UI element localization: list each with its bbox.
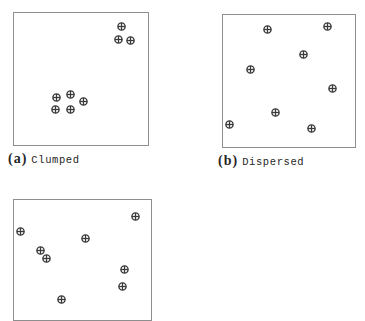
circle-plus-icon xyxy=(299,50,308,59)
panel-a-clumped xyxy=(13,12,149,146)
caption-panel-a: (a)Clumped xyxy=(8,149,80,167)
circle-plus-icon xyxy=(323,22,332,31)
caption-a-text: Clumped xyxy=(31,154,79,166)
circle-plus-icon xyxy=(126,36,135,45)
circle-plus-icon xyxy=(52,93,61,102)
circle-plus-icon xyxy=(131,212,140,221)
cropped-heading-strip xyxy=(180,0,365,6)
panel-c-random xyxy=(13,199,152,321)
caption-b-index: (b) xyxy=(218,153,238,168)
panel-b-dispersed xyxy=(222,14,356,148)
circle-plus-icon xyxy=(51,105,60,114)
circle-plus-icon xyxy=(118,282,127,291)
circle-plus-icon xyxy=(120,265,129,274)
caption-b-text: Dispersed xyxy=(242,156,304,168)
circle-plus-icon xyxy=(225,120,234,129)
circle-plus-icon xyxy=(79,97,88,106)
circle-plus-icon xyxy=(263,25,272,34)
caption-a-index: (a) xyxy=(8,151,27,166)
circle-plus-icon xyxy=(66,90,75,99)
circle-plus-icon xyxy=(81,234,90,243)
panel-b-plot-area xyxy=(223,15,355,147)
circle-plus-icon xyxy=(114,35,123,44)
circle-plus-icon xyxy=(16,227,25,236)
circle-plus-icon xyxy=(42,254,51,263)
circle-plus-icon xyxy=(307,124,316,133)
circle-plus-icon xyxy=(66,105,75,114)
caption-panel-b: (b)Dispersed xyxy=(218,151,304,169)
circle-plus-icon xyxy=(246,65,255,74)
circle-plus-icon xyxy=(117,22,126,31)
circle-plus-icon xyxy=(328,84,337,93)
circle-plus-icon xyxy=(57,295,66,304)
circle-plus-icon xyxy=(271,108,280,117)
panel-a-plot-area xyxy=(14,13,148,145)
